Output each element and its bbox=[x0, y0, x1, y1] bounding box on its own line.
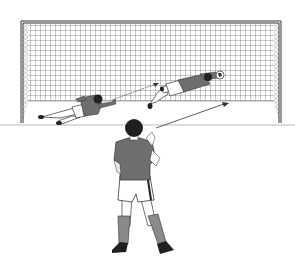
penalty-taker bbox=[112, 119, 174, 254]
motion-arrow-2 bbox=[156, 102, 229, 128]
penalty-kick-illustration: Penalty kick scene bbox=[0, 0, 295, 269]
